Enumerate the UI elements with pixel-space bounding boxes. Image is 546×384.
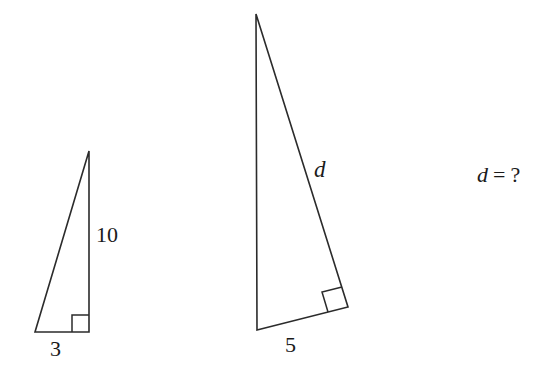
label-left-base-leg: 3 [50, 338, 61, 360]
left-triangle-group [35, 151, 89, 332]
left-triangle-right-angle-icon [72, 315, 89, 332]
middle-triangle-outline [256, 14, 348, 330]
label-left-vertical-leg: 10 [96, 224, 118, 246]
label-middle-base-leg: 5 [285, 334, 296, 356]
question-unknown-mark: ? [510, 162, 520, 187]
middle-triangle-group [256, 14, 348, 330]
figure-canvas [0, 0, 546, 384]
middle-triangle-right-angle-icon [322, 287, 342, 312]
question-equals-sign: = [493, 162, 505, 187]
question-variable: d [477, 162, 488, 187]
left-triangle-outline [35, 151, 89, 332]
geometry-figure: 10 3 d 5 d=? [0, 0, 546, 384]
question-expression: d=? [477, 164, 520, 186]
label-middle-hypotenuse: d [314, 158, 326, 181]
